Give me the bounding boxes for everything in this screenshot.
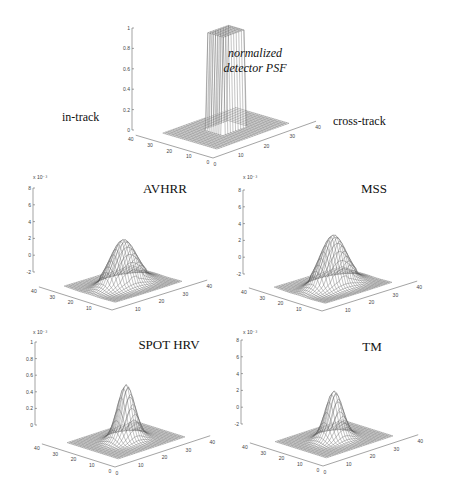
x-tick-label: 40 <box>209 439 215 445</box>
y-tick-label: 30 <box>52 451 58 457</box>
surface-plot-4: -202468010203040010203040 <box>235 337 424 475</box>
top-title-line2: detector PSF <box>224 61 288 75</box>
z-tick-label: 2 <box>28 235 31 241</box>
z-tick-label: -2 <box>27 269 32 275</box>
z-tick-label: 4 <box>238 221 241 227</box>
psf-figure: 00.20.40.60.81010203040010203040-2024681… <box>0 0 459 492</box>
y-tick-label: 40 <box>34 445 40 451</box>
x-tick-label: 10 <box>238 152 244 158</box>
y-tick-label: 30 <box>49 294 55 300</box>
z-tick-label: 2 <box>238 237 241 243</box>
x-tick-label: 10 <box>135 306 141 312</box>
panel-title-avhrr: AVHRR <box>143 181 187 196</box>
z-tick-label: 8 <box>28 185 31 191</box>
x-tick-label: 30 <box>394 446 400 452</box>
x-tick-label: 30 <box>289 133 295 139</box>
panel-title-mss: MSS <box>361 181 387 196</box>
z-tick-label: 6 <box>238 204 241 210</box>
y-tick-label: 10 <box>297 461 303 467</box>
y-tick-label: 40 <box>242 444 248 450</box>
z-tick-label: 6 <box>28 202 31 208</box>
x-tick-label: 40 <box>417 438 423 444</box>
z-tick-label: 0.4 <box>26 389 33 395</box>
y-tick-label: 10 <box>89 462 95 468</box>
z-tick-label: 0.6 <box>26 372 33 378</box>
y-tick-label: 30 <box>260 450 266 456</box>
z-tick-label: -2 <box>235 421 240 427</box>
x-tick-label: 40 <box>315 124 321 130</box>
x-tick-label: 30 <box>393 292 399 298</box>
z-tick-label: 0.6 <box>123 66 130 72</box>
zscale-tm: x 10⁻³ <box>243 329 257 335</box>
x-tick-label: 20 <box>264 143 270 149</box>
x-tick-label: 30 <box>186 447 192 453</box>
y-tick-label: 30 <box>259 295 265 301</box>
y-tick-label: 20 <box>71 456 77 462</box>
z-tick-label: 8 <box>236 337 239 343</box>
y-tick-label: 40 <box>31 288 37 294</box>
y-tick-label: 10 <box>296 306 302 312</box>
cross-track-label: cross-track <box>333 114 386 128</box>
x-tick-label: 20 <box>369 299 375 305</box>
z-tick-label: 8 <box>238 187 241 193</box>
zscale-mss: x 10⁻³ <box>243 174 257 180</box>
x-tick-label: 10 <box>345 307 351 313</box>
y-tick-label: 30 <box>147 142 153 148</box>
z-tick-label: 4 <box>236 371 239 377</box>
x-tick-label: 30 <box>183 291 189 297</box>
x-tick-label: 20 <box>159 298 165 304</box>
z-tick-label: -2 <box>237 271 242 277</box>
z-tick-label: 0.4 <box>123 86 130 92</box>
y-tick-label: 0 <box>207 159 210 165</box>
z-tick-label: 0 <box>30 422 33 428</box>
z-tick-label: 0 <box>238 254 241 260</box>
x-tick-label: 40 <box>416 284 422 290</box>
z-tick-label: 0.2 <box>123 107 130 113</box>
x-tick-label: 10 <box>138 462 144 468</box>
panel-title-tm: TM <box>362 339 382 354</box>
panel-title-spot-hrv: SPOT HRV <box>138 337 200 352</box>
z-tick-label: 0.2 <box>26 405 33 411</box>
y-tick-label: 40 <box>241 289 247 295</box>
z-tick-label: 0.8 <box>26 356 33 362</box>
z-tick-label: 2 <box>236 387 239 393</box>
z-tick-label: 0 <box>127 127 130 133</box>
x-tick-label: 10 <box>346 461 352 467</box>
surface-plot-0: 00.20.40.60.81010203040010203040 <box>123 25 321 167</box>
z-tick-label: 0 <box>236 404 239 410</box>
x-tick-label: 0 <box>116 470 119 476</box>
y-tick-label: 10 <box>186 153 192 159</box>
surface-plot-3: 00.20.40.60.81010203040010203040 <box>26 339 215 476</box>
top-title-line1: normalized <box>228 46 283 60</box>
z-tick-label: 1 <box>127 25 130 31</box>
z-tick-label: 1 <box>30 339 33 345</box>
y-tick-label: 20 <box>279 455 285 461</box>
y-tick-label: 40 <box>128 136 134 142</box>
y-tick-label: 20 <box>167 148 173 154</box>
x-tick-label: 20 <box>162 454 168 460</box>
x-tick-label: 0 <box>214 161 217 167</box>
x-tick-label: 40 <box>206 283 212 289</box>
z-tick-label: 4 <box>28 219 31 225</box>
z-tick-label: 0 <box>28 252 31 258</box>
y-tick-label: 0 <box>317 467 320 473</box>
y-tick-label: 10 <box>86 305 92 311</box>
in-track-label: in-track <box>62 110 99 124</box>
y-tick-label: 0 <box>109 468 112 474</box>
y-tick-label: 20 <box>278 300 284 306</box>
zscale-spot: x 10⁻³ <box>33 329 47 335</box>
y-tick-label: 20 <box>68 299 74 305</box>
x-tick-label: 20 <box>370 453 376 459</box>
z-tick-label: 0.8 <box>123 45 130 51</box>
x-tick-label: 0 <box>324 469 327 475</box>
surface-plot-1: -2024681020304010203040 <box>27 185 213 312</box>
surface-plot-2: -2024681020304010203040 <box>237 187 423 313</box>
zscale-avhrr: x 10⁻³ <box>33 174 47 180</box>
z-tick-label: 6 <box>236 354 239 360</box>
